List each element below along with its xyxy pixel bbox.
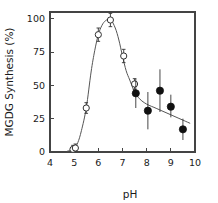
data-point-filled-circles-1 <box>144 107 151 114</box>
data-point-open-circles-4 <box>107 17 113 23</box>
data-point-filled-circles-2 <box>156 87 163 94</box>
y-axis-ticks <box>50 19 54 152</box>
y-tick-label-50: 50 <box>33 80 45 91</box>
x-tick-label-9: 9 <box>168 157 174 168</box>
data-point-open-circles-1 <box>72 145 78 151</box>
filled-circle-series <box>132 69 186 140</box>
data-point-filled-circles-3 <box>167 103 174 110</box>
y-tick-label-0: 0 <box>39 146 45 157</box>
mgdg-synthesis-ph-chart: 0255075100 45678910 pH MGDG Synthesis (%… <box>0 0 218 203</box>
x-axis-tick-labels: 45678910 <box>47 157 201 168</box>
x-axis-title: pH <box>123 188 138 200</box>
x-tick-label-5: 5 <box>71 157 77 168</box>
x-tick-label-7: 7 <box>119 157 125 168</box>
chart-canvas: 0255075100 45678910 pH MGDG Synthesis (%… <box>0 0 218 203</box>
x-tick-label-10: 10 <box>189 157 201 168</box>
ph-response-curve <box>67 19 190 151</box>
y-tick-label-100: 100 <box>27 13 45 24</box>
data-point-open-circles-2 <box>83 105 89 111</box>
x-tick-label-6: 6 <box>95 157 101 168</box>
x-tick-label-8: 8 <box>144 157 150 168</box>
open-circle-series <box>70 13 138 152</box>
data-point-open-circles-6 <box>131 81 137 87</box>
data-point-filled-circles-0 <box>132 90 139 97</box>
data-point-open-circles-3 <box>95 32 101 38</box>
y-axis-tick-labels: 0255075100 <box>27 13 45 157</box>
x-tick-label-4: 4 <box>47 157 53 168</box>
data-point-filled-circles-4 <box>179 126 186 133</box>
y-axis-title: MGDG Synthesis (%) <box>3 28 15 137</box>
plot-frame <box>50 12 195 152</box>
y-tick-label-75: 75 <box>33 46 45 57</box>
y-tick-label-25: 25 <box>33 113 45 124</box>
data-point-open-circles-5 <box>121 53 127 59</box>
